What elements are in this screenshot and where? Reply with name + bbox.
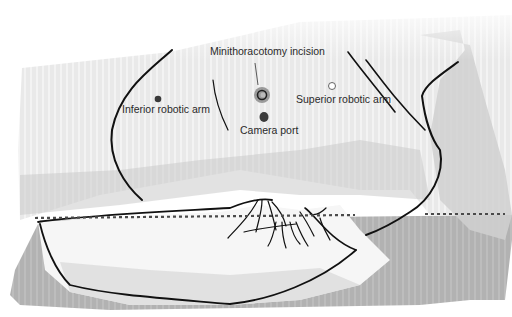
superior-arm-label: Superior robotic arm xyxy=(296,94,391,105)
surgical-illustration: Minithoracotomy incision Inferior roboti… xyxy=(0,0,512,317)
camera-port-label: Camera port xyxy=(240,125,298,136)
superior-arm-marker xyxy=(329,83,336,90)
inferior-arm-marker xyxy=(155,96,162,103)
minithoracotomy-marker xyxy=(254,87,270,103)
inferior-arm-label: Inferior robotic arm xyxy=(122,104,210,115)
minithoracotomy-label: Minithoracotomy incision xyxy=(210,46,325,57)
camera-port-marker xyxy=(260,112,269,122)
